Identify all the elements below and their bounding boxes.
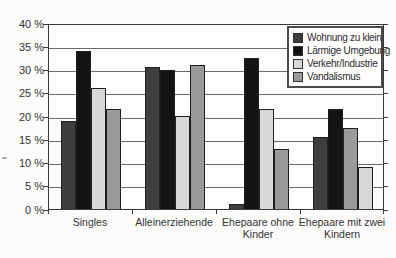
bar-lärmige-umgebung-group-2 [160,70,175,210]
bar-wohnung-zu-klein-group-1 [61,121,76,209]
y-tick-label: 10 % [6,158,44,169]
y-tick-mark-left [43,70,48,71]
x-category-label: Singles [42,216,138,228]
bar-verkehr-industrie-group-3 [259,109,274,209]
y-tick-mark-left [43,186,48,187]
x-boundary-tick [300,210,301,214]
legend-label: Vandalismus [307,71,360,82]
legend-swatch-icon [293,72,303,82]
y-tick-mark-right [384,93,388,94]
y-tick-label: 0 % [6,205,44,216]
y-tick-mark-right [384,163,388,164]
legend-swatch-icon [293,59,303,69]
y-tick-mark-left [43,24,48,25]
bar-vandalismus-group-4 [343,128,358,209]
legend: Wohnung zu kleinLärmige UmgebungVerkehr/… [287,26,383,88]
bar-verkehr-industrie-group-1 [91,88,106,209]
x-boundary-tick [48,210,49,214]
x-category-label: Ehepaare mit zwei Kindern [294,216,390,240]
bar-verkehr-industrie-group-4 [358,167,373,209]
legend-item: Vandalismus [293,70,378,83]
y-tick-mark-left [43,163,48,164]
bar-vandalismus-group-3 [274,149,289,209]
y-tick-label: 5 % [6,181,44,192]
bar-lärmige-umgebung-group-3 [244,58,259,209]
legend-swatch-icon [293,46,303,56]
y-tick-mark-left [43,117,48,118]
x-boundary-tick [132,210,133,214]
y-tick-label: 20 % [6,112,44,123]
legend-item: Lärmige Umgebung [293,44,378,57]
y-tick-label: 40 % [6,19,44,30]
legend-item: Wohnung zu klein [293,31,378,44]
bar-chart-figure: 0 %5 %10 %15 %20 %25 %30 %35 %40 % Singl… [0,0,396,258]
bar-wohnung-zu-klein-group-4 [313,137,328,209]
y-tick-mark-left [43,93,48,94]
x-boundary-tick [216,210,217,214]
y-tick-label: 35 % [6,42,44,53]
bar-vandalismus-group-2 [190,65,205,209]
y-tick-mark-right [384,24,388,25]
legend-swatch-icon [293,33,303,43]
x-category-label: Ehepaare ohne Kinder [210,216,306,240]
y-tick-mark-right [384,140,388,141]
x-boundary-tick [383,210,384,214]
legend-label: Wohnung zu klein [307,32,382,43]
y-tick-label: 15 % [6,135,44,146]
bar-verkehr-industrie-group-2 [175,116,190,209]
legend-label: Lärmige Umgebung [307,45,390,56]
bar-wohnung-zu-klein-group-2 [145,67,160,209]
bar-lärmige-umgebung-group-1 [76,51,91,209]
y-tick-mark-left [43,140,48,141]
y-tick-mark-right [384,70,388,71]
bar-lärmige-umgebung-group-4 [328,109,343,209]
x-category-label: Alleinerziehende [126,216,222,228]
y-tick-label: 25 % [6,88,44,99]
y-tick-mark-right [384,210,388,211]
y-tick-mark-right [384,186,388,187]
legend-label: Verkehr/Industrie [307,58,378,69]
y-tick-mark-right [384,117,388,118]
bar-vandalismus-group-1 [106,109,121,209]
bar-wohnung-zu-klein-group-3 [229,204,244,209]
y-tick-label: 30 % [6,65,44,76]
y-tick-mark-left [43,47,48,48]
legend-item: Verkehr/Industrie [293,57,378,70]
